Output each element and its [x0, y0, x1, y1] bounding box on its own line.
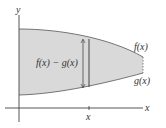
y-axis-label: y [15, 4, 21, 15]
x-axis-label: x [144, 102, 150, 113]
x-position-label: x [85, 111, 91, 122]
area-between-curves-diagram: y x f(x) g(x) f(x) − g(x) x [0, 0, 166, 128]
g-label: g(x) [134, 75, 151, 87]
height-label: f(x) − g(x) [36, 57, 78, 69]
f-label: f(x) [134, 41, 149, 53]
